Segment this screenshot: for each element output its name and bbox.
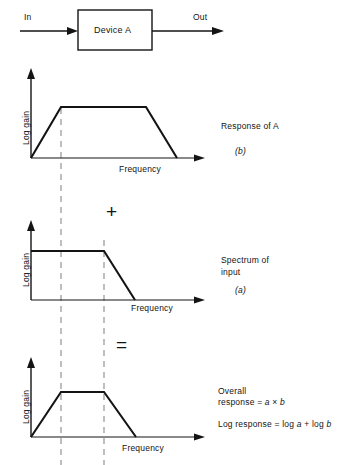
input-label: In [24,12,32,23]
chart-response-of-a [27,68,205,162]
output-arrow-head [212,27,224,35]
figure-canvas [0,0,348,465]
chart3-trace [31,392,136,437]
chart3-y-axis-arrow [27,357,35,368]
overall-response-line1: Overall [218,386,246,397]
chart2-caption: Spectrum of input [221,255,269,278]
log-response-b: b [326,419,331,429]
chart1-caption: Response of A [221,121,279,132]
output-label: Out [193,12,207,23]
chart1-x-axis-label: Frequency [119,164,161,175]
chart1-x-axis-arrow [194,155,205,162]
chart2-trace [31,251,135,300]
chart3-y-axis-label: Log gain [21,390,31,424]
chart1-trace [31,107,177,158]
chart1-y-axis-label: Log gain [21,111,31,145]
input-arrow-head [67,27,78,35]
chart2-x-axis-label: Frequency [131,303,173,314]
chart1-part-letter: (b) [235,146,246,157]
chart2-y-axis-arrow [27,220,35,231]
chart-overall-response [27,357,205,441]
log-response-equation: Log response = log a + log b [218,419,331,430]
log-response-prefix: Log response = log [218,419,297,429]
log-response-middle: + log [302,419,327,429]
chart1-y-axis-arrow [27,68,35,79]
figure-root: In Out Device A Log gain Frequency Respo… [0,0,348,465]
chart3-x-axis-arrow [194,434,205,441]
overall-response-times: × [270,397,280,407]
cutoff-guides [61,108,104,465]
plus-operator: + [106,202,117,221]
chart2-y-axis-label: Log gain [21,253,31,287]
overall-response-b: b [280,397,285,407]
chart-spectrum-of-input [27,220,205,304]
overall-response-line2: response = a × b [218,397,285,408]
device-label: Device A [94,25,131,35]
chart2-x-axis-arrow [194,297,205,304]
equals-operator: = [116,335,127,354]
chart2-part-letter: (a) [235,285,246,296]
overall-response-prefix: response = [218,397,265,407]
chart3-x-axis-label: Frequency [122,443,164,454]
